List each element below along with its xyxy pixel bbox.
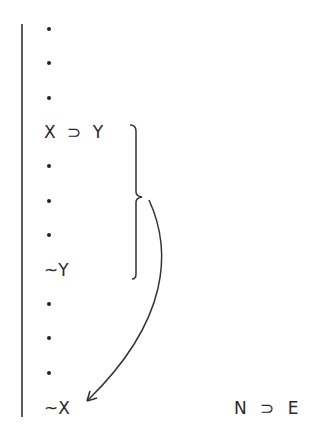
proof-dot	[47, 27, 51, 31]
proof-diagram: X ⊃ Y ~Y ~X N ⊃ E	[0, 0, 315, 444]
proof-dot	[47, 233, 51, 237]
inference-arrow	[88, 200, 162, 400]
formula-not-y: ~Y	[44, 260, 69, 280]
proof-dot	[47, 61, 51, 65]
rule-label: N ⊃ E	[234, 398, 303, 418]
formula-not-x: ~X	[44, 398, 70, 418]
proof-dot	[47, 96, 51, 100]
proof-dot	[47, 302, 51, 306]
diagram-lines	[0, 0, 315, 444]
proof-dot	[47, 164, 51, 168]
formula-x-implies-y: X ⊃ Y	[44, 122, 106, 142]
bracket-brace-icon	[130, 125, 142, 279]
proof-dot	[47, 336, 51, 340]
proof-dot	[47, 371, 51, 375]
proof-dot	[47, 199, 51, 203]
